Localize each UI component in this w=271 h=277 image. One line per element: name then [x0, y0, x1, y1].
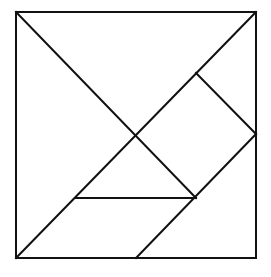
- dividing-lines: [16, 12, 256, 258]
- tangram-diagram: [0, 0, 271, 277]
- segment-upper-right-to-right-edge: [196, 73, 256, 134]
- tangram-svg: [0, 0, 271, 277]
- segment-right-edge-to-bottom: [136, 134, 256, 258]
- segment-diag-tl-to-mid-lower: [16, 12, 196, 198]
